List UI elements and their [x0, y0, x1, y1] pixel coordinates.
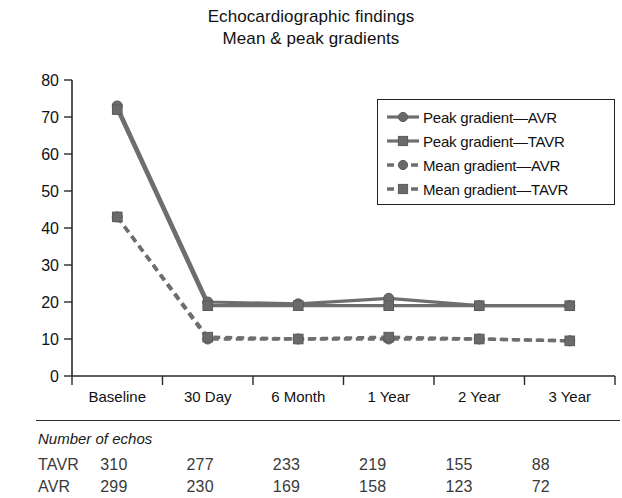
cell-avr-baseline: 299: [100, 478, 186, 498]
line-chart: 01020304050607080Baseline30 Day6 Month1 …: [0, 0, 622, 420]
y-axis-tick-label: 50: [41, 183, 59, 200]
legend-item-peak-avr: Peak gradient—AVR: [386, 105, 608, 129]
x-axis-tick-label: 1 Year: [367, 388, 410, 405]
cell-avr-30day: 230: [187, 478, 273, 498]
y-axis-tick-label: 80: [41, 72, 59, 89]
y-axis-tick-label: 0: [50, 368, 59, 385]
x-axis-tick-label: Baseline: [88, 388, 146, 405]
x-axis-tick-label: 30 Day: [184, 388, 232, 405]
legend-marker-circle-dashed-icon: [386, 157, 420, 173]
y-axis-tick-label: 70: [41, 109, 59, 126]
series-data-point: [384, 301, 394, 311]
chart-plot-area: 01020304050607080Baseline30 Day6 Month1 …: [0, 0, 622, 420]
legend-item-mean-avr: Mean gradient—AVR: [386, 153, 608, 177]
echo-counts-table: Number of echos TAVR 310 277 233 219 155…: [0, 418, 622, 498]
legend-label-mean-avr: Mean gradient—AVR: [423, 157, 560, 174]
x-axis-tick-label: 2 Year: [458, 388, 501, 405]
series-data-point: [112, 212, 122, 222]
cell-tavr-baseline: 310: [100, 456, 186, 478]
table-row-tavr: TAVR 310 277 233 219 155 88: [38, 456, 618, 478]
legend-label-peak-avr: Peak gradient—AVR: [423, 109, 557, 126]
cell-avr-2year: 123: [445, 478, 531, 498]
y-axis-tick-label: 20: [41, 294, 59, 311]
series-data-point: [474, 334, 484, 344]
cell-tavr-3year: 88: [532, 456, 618, 478]
series-data-point: [203, 301, 213, 311]
cell-tavr-2year: 155: [445, 456, 531, 478]
x-axis-tick-label: 3 Year: [548, 388, 591, 405]
legend-label-peak-tavr: Peak gradient—TAVR: [423, 133, 565, 150]
series-data-point: [565, 336, 575, 346]
x-axis-tick-label: 6 Month: [271, 388, 325, 405]
cell-tavr-6month: 233: [273, 456, 359, 478]
y-axis-tick-label: 10: [41, 331, 59, 348]
series-data-point: [112, 105, 122, 115]
legend-item-mean-tavr: Mean gradient—TAVR: [386, 177, 608, 201]
series-data-point: [293, 334, 303, 344]
y-axis-tick-label: 60: [41, 146, 59, 163]
legend-marker-circle-solid-icon: [386, 109, 420, 125]
table-row-avr: AVR 299 230 169 158 123 72: [38, 478, 618, 498]
cell-tavr-30day: 277: [187, 456, 273, 478]
series-data-point: [203, 332, 213, 342]
table-caption: Number of echos: [38, 430, 152, 447]
legend-label-mean-tavr: Mean gradient—TAVR: [423, 181, 568, 198]
cell-avr-6month: 169: [273, 478, 359, 498]
legend-item-peak-tavr: Peak gradient—TAVR: [386, 129, 608, 153]
row-label-avr: AVR: [38, 478, 100, 498]
series-line: [117, 217, 570, 341]
legend-marker-square-dashed-icon: [386, 181, 420, 197]
y-axis-tick-label: 30: [41, 257, 59, 274]
series-data-point: [565, 301, 575, 311]
series-line: [117, 217, 570, 341]
cell-tavr-1year: 219: [359, 456, 445, 478]
y-axis-tick-label: 40: [41, 220, 59, 237]
series-data-point: [384, 332, 394, 342]
series-data-point: [474, 301, 484, 311]
row-label-tavr: TAVR: [38, 456, 100, 478]
cell-avr-1year: 158: [359, 478, 445, 498]
chart-legend: Peak gradient—AVR Peak gradient—TAVR Mea…: [377, 99, 615, 205]
table-divider-rule: [36, 420, 620, 421]
series-data-point: [293, 301, 303, 311]
counts-table: TAVR 310 277 233 219 155 88 AVR 299 230 …: [38, 456, 618, 498]
cell-avr-3year: 72: [532, 478, 618, 498]
legend-marker-square-solid-icon: [386, 133, 420, 149]
